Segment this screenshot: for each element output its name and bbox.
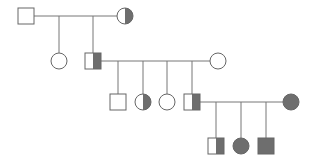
individual-III-5 bbox=[283, 94, 299, 110]
individual-IV-1 bbox=[208, 138, 224, 154]
individual-II-2 bbox=[85, 53, 101, 69]
individual-IV-2 bbox=[233, 138, 249, 154]
pedigree-chart bbox=[0, 0, 312, 165]
individual-IV-3 bbox=[258, 138, 274, 154]
individual-III-4 bbox=[184, 94, 200, 110]
individual-I-2 bbox=[117, 8, 133, 24]
individual-III-1 bbox=[110, 94, 126, 110]
connector-lines bbox=[34, 16, 283, 138]
individual-III-3 bbox=[159, 94, 175, 110]
individual-II-1 bbox=[51, 53, 67, 69]
individual-III-2 bbox=[135, 94, 151, 110]
individuals bbox=[18, 8, 299, 154]
affected-fill bbox=[258, 138, 274, 154]
male-square-icon bbox=[18, 8, 34, 24]
male-square-icon bbox=[110, 94, 126, 110]
individual-II-3 bbox=[210, 53, 226, 69]
individual-I-1 bbox=[18, 8, 34, 24]
